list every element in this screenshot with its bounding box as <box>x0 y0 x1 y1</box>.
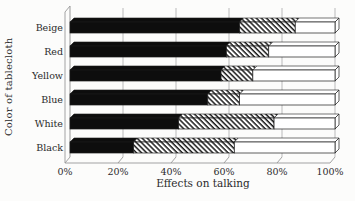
hatched-segment-top <box>240 18 300 22</box>
bar-yellow <box>70 66 339 81</box>
hatched-segment-top <box>179 114 278 118</box>
category-label: Red <box>44 46 63 57</box>
x-axis-title: Effects on talking <box>88 177 318 189</box>
bar-red <box>70 42 339 57</box>
solid-black-segment-top <box>70 90 212 94</box>
hatched-segment <box>179 118 274 129</box>
x-tick-label: 0% <box>57 166 72 177</box>
axis-tick <box>118 157 123 163</box>
axis-tick <box>65 157 70 163</box>
hatched-segment-top <box>208 90 244 94</box>
open-white-segment-top <box>269 42 339 46</box>
open-white-segment-top <box>253 66 339 70</box>
solid-black-segment-top <box>70 42 230 46</box>
open-white-segment <box>234 142 335 153</box>
category-label: Blue <box>41 94 63 105</box>
wall-top-edge <box>65 6 70 12</box>
bar-white <box>70 114 339 129</box>
solid-black-segment-top <box>70 114 183 118</box>
bar-black <box>70 138 339 153</box>
hatched-segment <box>240 22 296 33</box>
x-tick-label: 60% <box>213 166 234 177</box>
open-white-segment-top <box>240 90 339 94</box>
bar-blue <box>70 90 339 105</box>
open-white-segment <box>240 94 335 105</box>
x-tick-label: 100% <box>316 166 343 177</box>
open-white-segment-top <box>274 114 339 118</box>
solid-black-segment-top <box>70 18 244 22</box>
open-white-segment-top <box>295 18 339 22</box>
x-tick-label: 80% <box>266 166 287 177</box>
axis-tick <box>171 157 176 163</box>
category-label: Yellow <box>31 70 63 81</box>
open-white-segment <box>274 118 335 129</box>
hatched-segment <box>226 46 268 57</box>
solid-black-segment-top <box>70 66 225 70</box>
solid-black-segment <box>70 142 134 153</box>
hatched-segment <box>221 70 253 81</box>
solid-black-segment <box>70 70 221 81</box>
open-white-segment <box>269 46 335 57</box>
x-tick-label: 20% <box>107 166 128 177</box>
y-axis-title: Color of tablecloth <box>0 12 16 162</box>
solid-black-segment <box>70 22 240 33</box>
open-white-segment-top <box>234 138 339 142</box>
bar-beige <box>70 18 339 33</box>
open-white-segment <box>253 70 335 81</box>
solid-black-segment-top <box>70 138 138 142</box>
solid-black-segment <box>70 118 179 129</box>
hatched-segment-top <box>134 138 239 142</box>
chart: 0%20%40%60%80%100%BeigeRedYellowBlueWhit… <box>0 0 355 201</box>
solid-black-segment <box>70 94 208 105</box>
hatched-segment <box>208 94 240 105</box>
axis-tick <box>330 157 335 163</box>
hatched-segment-top <box>226 42 272 46</box>
hatched-segment-top <box>221 66 257 70</box>
chart-canvas: 0%20%40%60%80%100%BeigeRedYellowBlueWhit… <box>0 0 355 201</box>
hatched-segment <box>134 142 235 153</box>
category-label: Black <box>36 142 63 153</box>
category-label: White <box>35 118 64 129</box>
category-label: Beige <box>36 22 64 33</box>
axis-tick <box>224 157 229 163</box>
axis-tick <box>277 157 282 163</box>
x-tick-label: 40% <box>160 166 181 177</box>
open-white-segment <box>295 22 335 33</box>
solid-black-segment <box>70 46 226 57</box>
